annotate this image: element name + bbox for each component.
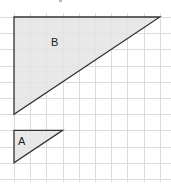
cropped-mark bbox=[59, 0, 62, 2]
triangles bbox=[14, 17, 160, 163]
triangle-b-label: B bbox=[51, 36, 58, 48]
triangle-a-label: A bbox=[18, 135, 26, 147]
grid-diagram: B A bbox=[0, 0, 171, 186]
triangle-b bbox=[14, 17, 160, 114]
